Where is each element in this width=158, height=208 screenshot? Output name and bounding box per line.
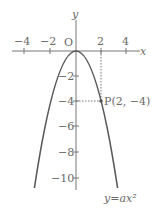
y-tick-label-neg6: −6	[58, 120, 74, 133]
point-p-label: P(2, −4)	[104, 95, 150, 108]
x-tick-label-neg2: −2	[40, 35, 56, 48]
point-p	[99, 99, 103, 103]
x-axis-label: x	[140, 45, 147, 58]
x-tick-label-2: 2	[97, 35, 104, 48]
x-tick-label-4: 4	[122, 35, 129, 48]
y-tick-label-neg8: −8	[58, 146, 74, 159]
curve-label: y=ax²	[103, 192, 137, 205]
parabola-chart: y x O −4 −2 2 4 −2 −4 −6 −8 −10 P(2, −4)…	[0, 0, 158, 208]
y-axis-label: y	[71, 8, 79, 21]
y-tick-label-neg10: −10	[51, 172, 74, 185]
origin-label: O	[64, 36, 73, 49]
y-tick-label-neg4: −4	[58, 95, 74, 108]
y-tick-label-neg2: −2	[58, 70, 74, 83]
x-tick-label-neg4: −4	[14, 35, 30, 48]
